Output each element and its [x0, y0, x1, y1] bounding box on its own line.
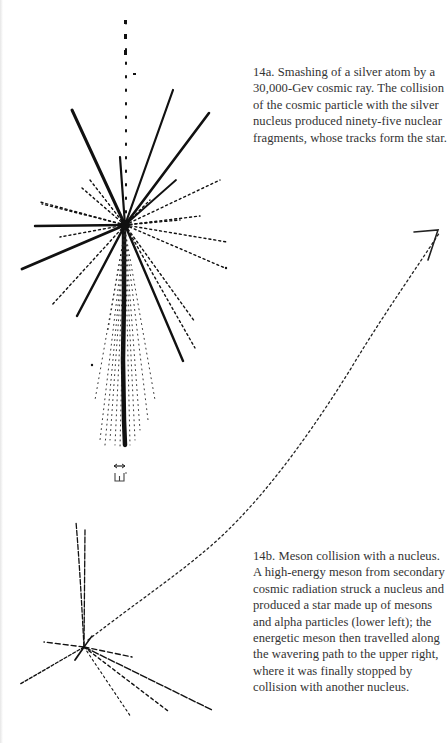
caption-line: the wavering path to the upper right,: [253, 646, 445, 662]
caption-line: collision with another nucleus.: [253, 679, 445, 695]
caption-line: where it was finally stopped by: [253, 663, 445, 679]
caption-line: and alpha particles (lower left); the: [253, 614, 445, 630]
caption-line: 30,000-Gev cosmic ray. The collision: [253, 80, 447, 96]
silver-atom-star: [22, 20, 227, 448]
figure-14b-caption: 14b. Meson collision with a nucleus. A h…: [253, 548, 445, 696]
caption-line: nucleus produced ninety-five nuclear: [253, 113, 447, 129]
caption-line: A high-energy meson from secondary: [253, 564, 445, 580]
caption-line: energetic meson then travelled along: [253, 630, 445, 646]
figure-14a-caption: 14a. Smashing of a silver atom by a 30,0…: [253, 64, 447, 146]
caption-line: 14b. Meson collision with a nucleus.: [253, 548, 445, 564]
caption-line: of the cosmic particle with the silver: [253, 97, 447, 113]
caption-line: fragments, whose tracks form the star.: [253, 130, 447, 146]
caption-line: cosmic radiation struck a nucleus and: [253, 581, 445, 597]
scale-bar-icon: [112, 462, 128, 484]
meson-collision-star: [20, 522, 212, 717]
caption-line: 14a. Smashing of a silver atom by a: [253, 64, 447, 80]
caption-line: produced a star made up of mesons: [253, 597, 445, 613]
